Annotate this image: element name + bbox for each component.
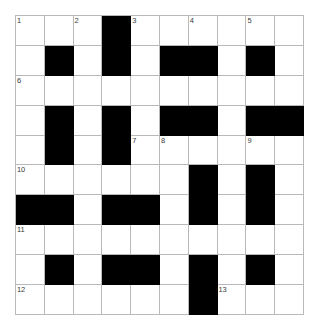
- grid-cell[interactable]: [189, 136, 218, 166]
- grid-cell[interactable]: [74, 195, 103, 225]
- grid-cell[interactable]: [218, 136, 247, 166]
- grid-cell[interactable]: 10: [16, 165, 45, 195]
- grid-block-cell: [160, 106, 189, 136]
- grid-cell[interactable]: [160, 225, 189, 255]
- grid-cell[interactable]: [160, 285, 189, 315]
- grid-block-cell: [45, 136, 74, 166]
- grid-cell[interactable]: [275, 195, 304, 225]
- grid-cell[interactable]: 11: [16, 225, 45, 255]
- grid-cell[interactable]: [218, 165, 247, 195]
- cell-number: 2: [75, 16, 79, 25]
- grid-cell[interactable]: [246, 76, 275, 106]
- grid-cell[interactable]: [218, 76, 247, 106]
- grid-cell[interactable]: [74, 165, 103, 195]
- grid-cell[interactable]: [218, 46, 247, 76]
- grid-block-cell: [102, 136, 131, 166]
- grid-cell[interactable]: [131, 225, 160, 255]
- grid-cell[interactable]: [246, 225, 275, 255]
- grid-cell[interactable]: [74, 46, 103, 76]
- grid-block-cell: [246, 195, 275, 225]
- grid-cell[interactable]: [74, 285, 103, 315]
- grid-cell[interactable]: [218, 225, 247, 255]
- grid-cell[interactable]: 2: [74, 16, 103, 46]
- crossword-grid[interactable]: 12345678910111213: [15, 15, 304, 315]
- grid-cell[interactable]: [218, 255, 247, 285]
- grid-cell[interactable]: 9: [246, 136, 275, 166]
- grid-block-cell: [131, 195, 160, 225]
- grid-cell[interactable]: [102, 225, 131, 255]
- grid-block-cell: [102, 46, 131, 76]
- grid-cell[interactable]: [246, 285, 275, 315]
- grid-cell[interactable]: [218, 16, 247, 46]
- grid-cell[interactable]: [275, 76, 304, 106]
- grid-cell[interactable]: 5: [246, 16, 275, 46]
- grid-cell[interactable]: 8: [160, 136, 189, 166]
- grid-cell[interactable]: [45, 165, 74, 195]
- grid-cell[interactable]: [131, 106, 160, 136]
- grid-cell[interactable]: [160, 165, 189, 195]
- cell-number: 12: [17, 285, 25, 294]
- grid-block-cell: [102, 106, 131, 136]
- cell-number: 1: [17, 16, 21, 25]
- grid-cell[interactable]: [275, 225, 304, 255]
- grid-cell[interactable]: 12: [16, 285, 45, 315]
- grid-block-cell: [275, 106, 304, 136]
- grid-cell[interactable]: [218, 195, 247, 225]
- grid-cell[interactable]: [275, 46, 304, 76]
- grid-block-cell: [45, 46, 74, 76]
- cell-number: 4: [190, 16, 194, 25]
- grid-cell[interactable]: [189, 225, 218, 255]
- grid-cell[interactable]: [275, 165, 304, 195]
- grid-cell[interactable]: [16, 46, 45, 76]
- grid-cell[interactable]: [131, 165, 160, 195]
- grid-cell[interactable]: [16, 255, 45, 285]
- cell-number: 5: [247, 16, 251, 25]
- grid-cell[interactable]: [102, 285, 131, 315]
- grid-cell[interactable]: [218, 106, 247, 136]
- grid-cell[interactable]: [74, 136, 103, 166]
- grid-cell[interactable]: 1: [16, 16, 45, 46]
- grid-block-cell: [45, 106, 74, 136]
- grid-cell[interactable]: [189, 76, 218, 106]
- grid-block-cell: [189, 106, 218, 136]
- cell-number: 9: [247, 136, 251, 145]
- grid-cell[interactable]: [74, 225, 103, 255]
- grid-cell[interactable]: [102, 165, 131, 195]
- grid-cell[interactable]: [45, 16, 74, 46]
- cell-number: 3: [132, 16, 136, 25]
- grid-block-cell: [189, 285, 218, 315]
- grid-cell[interactable]: [131, 285, 160, 315]
- grid-cell[interactable]: [131, 46, 160, 76]
- grid-cell[interactable]: [102, 76, 131, 106]
- grid-cell[interactable]: [74, 106, 103, 136]
- grid-cell[interactable]: [74, 76, 103, 106]
- grid-cell[interactable]: [131, 76, 160, 106]
- grid-cell[interactable]: 3: [131, 16, 160, 46]
- grid-cell[interactable]: 6: [16, 76, 45, 106]
- grid-cell[interactable]: [275, 285, 304, 315]
- grid-cell[interactable]: [275, 16, 304, 46]
- grid-cell[interactable]: 13: [218, 285, 247, 315]
- grid-cell[interactable]: 7: [131, 136, 160, 166]
- grid-cell[interactable]: [45, 76, 74, 106]
- grid-block-cell: [189, 165, 218, 195]
- cell-number: 10: [17, 165, 25, 174]
- grid-block-cell: [102, 255, 131, 285]
- grid-block-cell: [246, 106, 275, 136]
- grid-cell[interactable]: [275, 136, 304, 166]
- grid-block-cell: [131, 255, 160, 285]
- grid-cell[interactable]: [45, 225, 74, 255]
- grid-block-cell: [189, 255, 218, 285]
- grid-cell[interactable]: [16, 136, 45, 166]
- grid-cell[interactable]: [74, 255, 103, 285]
- grid-block-cell: [45, 255, 74, 285]
- grid-cell[interactable]: [275, 255, 304, 285]
- grid-cell[interactable]: [160, 255, 189, 285]
- grid-cell[interactable]: [160, 76, 189, 106]
- grid-block-cell: [160, 46, 189, 76]
- grid-cell[interactable]: [160, 195, 189, 225]
- grid-cell[interactable]: [45, 285, 74, 315]
- grid-cell[interactable]: 4: [189, 16, 218, 46]
- grid-cell[interactable]: [16, 106, 45, 136]
- grid-cell[interactable]: [160, 16, 189, 46]
